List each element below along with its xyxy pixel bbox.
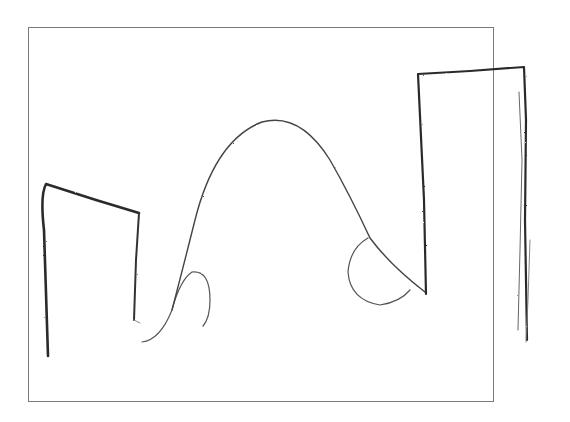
- left-small-arc: [142, 272, 210, 342]
- left-tower-shape: [42, 184, 139, 356]
- left-tower-right-edge: [134, 213, 139, 320]
- sketch-drawing: [0, 0, 570, 422]
- central-arch: [172, 120, 425, 310]
- right-edge-scribble-1: [518, 92, 522, 330]
- left-tower-foot: [134, 320, 140, 323]
- right-tower-shape: [418, 67, 527, 340]
